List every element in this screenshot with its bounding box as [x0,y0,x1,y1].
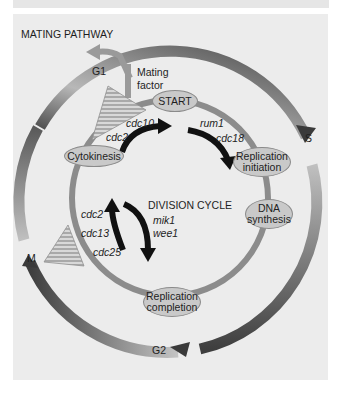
replication-completion-node: Replication completion [143,287,201,317]
start-node: START [152,90,198,112]
division-cycle-label: DIVISION CYCLE [148,199,232,211]
gene-mik1: mik1 [153,214,175,226]
gene-cdc10: cdc10 [126,117,154,129]
replication-initiation-node: Replication initiation [233,147,291,177]
phase-g2-label: G2 [152,344,166,356]
gene-cdc25: cdc25 [93,246,121,258]
gene-cdc2-top: cdc2 [106,131,128,143]
phase-s-label: S [305,132,312,144]
phase-g1-label: G1 [92,65,106,77]
cdc10-arrowhead-icon [158,118,172,134]
s-to-g2-arc [200,165,317,349]
cdc2-arrowhead-icon [104,198,120,212]
gene-wee1: wee1 [153,227,178,239]
mating-factor-line1: Mating [137,66,169,79]
replication-completion-line2: completion [146,302,198,313]
gene-rum1: rum1 [200,117,224,129]
mating-factor-line2: factor [137,79,169,92]
gene-cdc2-bottom: cdc2 [81,208,103,220]
gene-cdc18: cdc18 [216,132,244,144]
cytokinesis-label: Cytokinesis [67,151,121,162]
replication-initiation-line2: initiation [236,162,288,173]
mating-pathway-title: MATING PATHWAY [21,28,113,40]
start-label: START [158,96,191,107]
gene-cdc13: cdc13 [81,227,109,239]
mating-factor-label: Mating factor [137,66,169,92]
wee1-arrowhead-icon [140,248,156,262]
cytokinesis-node: Cytokinesis [64,145,124,167]
cell-cycle-diagram [0,0,343,393]
phase-m-label: M [27,252,36,264]
dna-synthesis-node: DNA synthesis [245,199,293,229]
dna-synthesis-line2: synthesis [247,214,291,225]
m-to-g1-arc [19,128,38,240]
